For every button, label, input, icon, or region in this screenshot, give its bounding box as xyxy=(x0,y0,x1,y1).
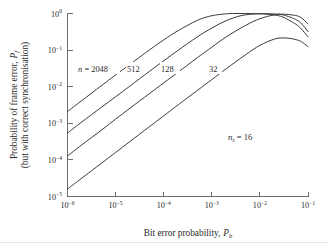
y-tick-labels: 100 10−1 10−2 10−3 10−4 10−5 xyxy=(48,8,62,201)
figure-container: 100 10−1 10−2 10−3 10−4 10−5 10−6 10−5 1… xyxy=(0,0,328,245)
x-tick-label-3: 10−3 xyxy=(205,200,219,210)
curve-label-128: 128 xyxy=(161,65,174,74)
curve-n-32 xyxy=(68,38,309,189)
x-axis-ticks xyxy=(68,192,309,197)
y-axis-title-line1: Probability of frame error,Pf xyxy=(9,50,20,159)
y-axis-ticks xyxy=(68,14,73,197)
axes-frame xyxy=(68,13,309,197)
y-tick-label-0: 100 xyxy=(51,8,62,18)
x-tick-label-4: 10−2 xyxy=(253,200,267,210)
x-tick-label-5: 10−1 xyxy=(301,200,315,210)
axis-lines xyxy=(68,13,309,197)
x-tick-labels: 10−6 10−5 10−4 10−3 10−2 10−1 xyxy=(60,200,315,210)
curve-n-128 xyxy=(68,14,309,156)
ns-annotation: ns= 16 xyxy=(228,132,253,143)
y-tick-label-2: 10−2 xyxy=(48,81,62,91)
x-tick-label-1: 10−5 xyxy=(109,200,123,210)
y-axis-title: Probability of frame error,Pf (but with … xyxy=(9,42,31,168)
y-axis-title-line2: (but with correct synchronisation) xyxy=(20,42,31,168)
curves-group xyxy=(68,13,309,189)
y-tick-label-1: 10−1 xyxy=(48,45,62,55)
x-tick-label-0: 10−6 xyxy=(60,200,74,210)
curve-label-512: 512 xyxy=(127,65,140,74)
curve-label-32: 32 xyxy=(209,65,217,74)
x-tick-label-2: 10−4 xyxy=(157,200,171,210)
y-tick-label-4: 10−4 xyxy=(48,155,62,165)
y-tick-label-3: 10−3 xyxy=(48,118,62,128)
page-rule xyxy=(0,242,328,243)
x-axis-title: Bit error probability,Pb xyxy=(144,228,233,239)
y-tick-label-5: 10−5 xyxy=(48,191,62,201)
chart-svg: 100 10−1 10−2 10−3 10−4 10−5 10−6 10−5 1… xyxy=(0,0,328,245)
